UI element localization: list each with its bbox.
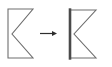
diagram-canvas: shape edge transformation xyxy=(0,0,112,67)
diagram-svg xyxy=(0,0,112,67)
